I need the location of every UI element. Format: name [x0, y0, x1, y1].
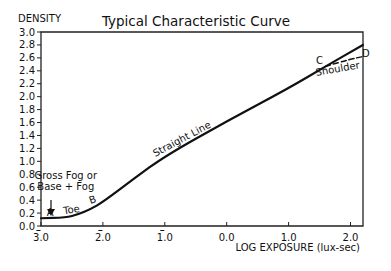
- y-tick-label: 2.2: [19, 78, 35, 89]
- y-tick-label: 0.6: [19, 182, 35, 193]
- annotations: AToeBStraight LineCShoulderDGross Fog or…: [34, 48, 370, 219]
- x-tick-label: 3.0: [33, 232, 49, 243]
- y-tick-label: 2.0: [19, 91, 35, 102]
- chart-title: Typical Characteristic Curve: [101, 13, 290, 29]
- y-tick-label: 0.8: [19, 169, 35, 180]
- y-tick-label: 0.0: [19, 221, 35, 232]
- x-axis-ticks: 3.02.01.00.01.02.0: [33, 222, 358, 243]
- y-tick-label: 2.4: [19, 65, 35, 76]
- y-tick-label: 1.8: [19, 104, 35, 115]
- base-fog-label: Base + Fog: [37, 181, 94, 192]
- y-tick-label: 2.6: [19, 52, 35, 63]
- x-tick-label: 2.0: [95, 232, 111, 243]
- point-d-label: D: [362, 48, 370, 59]
- y-tick-label: 1.6: [19, 117, 35, 128]
- x-tick-label: 0.0: [219, 232, 235, 243]
- x-tick-label: 1.0: [157, 232, 173, 243]
- y-axis-label: DENSITY: [18, 13, 62, 24]
- y-tick-label: 3.0: [19, 27, 35, 38]
- characteristic-curve-chart: DENSITY Typical Characteristic Curve 0.0…: [0, 0, 391, 271]
- y-tick-label: 0.2: [19, 208, 35, 219]
- straight-line-label: Straight Line: [151, 119, 213, 159]
- y-tick-label: 1.0: [19, 156, 35, 167]
- y-tick-label: 1.4: [19, 130, 35, 141]
- point-b-label: B: [87, 193, 97, 206]
- y-tick-label: 2.8: [19, 39, 35, 50]
- gross-fog-label: Gross Fog or: [34, 170, 98, 181]
- y-axis-ticks: 0.00.20.40.60.81.01.21.41.61.82.02.22.42…: [19, 27, 41, 232]
- x-axis-label: LOG EXPOSURE (lux-sec): [235, 242, 360, 253]
- point-c-label: C: [316, 55, 323, 66]
- y-tick-label: 1.2: [19, 143, 35, 154]
- y-tick-label: 0.4: [19, 195, 35, 206]
